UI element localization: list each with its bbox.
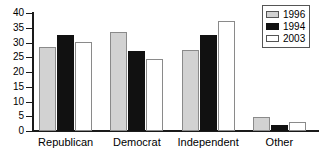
legend-label: 2003 <box>283 34 305 44</box>
legend-swatch-1996 <box>266 11 279 18</box>
legend-item-1994[interactable]: 1994 <box>266 21 305 32</box>
y-axis-tick-label: 0 <box>0 126 24 136</box>
y-axis-tick-label: 25 <box>0 52 24 62</box>
legend-label: 1996 <box>283 10 305 20</box>
bar-republican-1994 <box>57 35 74 131</box>
legend-swatch-2003 <box>266 35 279 42</box>
y-axis-tick-label-wrap: 0 <box>0 126 24 136</box>
y-axis-tick-label-wrap: 10 <box>0 97 24 107</box>
y-axis-tick-label-wrap: 30 <box>0 38 24 48</box>
y-axis-tick-label: 15 <box>0 82 24 92</box>
bar-republican-1996 <box>39 47 56 131</box>
bar-republican-2003 <box>75 42 92 131</box>
legend-swatch-1994 <box>266 23 279 30</box>
bar-independent-1996 <box>182 50 199 131</box>
y-axis-tick-label-wrap: 40 <box>0 8 24 18</box>
bar-democrat-1994 <box>128 51 145 131</box>
category-label-other: Other <box>233 136 326 148</box>
y-axis-tick-label: 20 <box>0 67 24 77</box>
y-axis-tick-label: 10 <box>0 97 24 107</box>
legend-label: 1994 <box>283 22 305 32</box>
bar-other-1996 <box>253 117 270 131</box>
legend: 199619942003 <box>262 5 310 48</box>
bar-democrat-2003 <box>146 59 163 131</box>
y-axis-tick-label: 35 <box>0 23 24 33</box>
bar-democrat-1996 <box>110 32 127 131</box>
bar-chart: 0510152025303540 RepublicanDemocratIndep… <box>0 0 326 157</box>
bar-independent-1994 <box>200 35 217 131</box>
bar-other-2003 <box>289 122 306 131</box>
y-axis-tick-label: 5 <box>0 111 24 121</box>
bar-independent-2003 <box>218 21 235 131</box>
y-axis-tick-label-wrap: 20 <box>0 67 24 77</box>
y-axis-tick-label-wrap: 25 <box>0 52 24 62</box>
legend-item-1996[interactable]: 1996 <box>266 9 305 20</box>
y-axis-tick-label: 30 <box>0 38 24 48</box>
y-axis-tick-label-wrap: 15 <box>0 82 24 92</box>
legend-item-2003[interactable]: 2003 <box>266 33 305 44</box>
bar-other-1994 <box>271 125 288 131</box>
y-axis-tick-label-wrap: 5 <box>0 111 24 121</box>
y-axis-tick-label-wrap: 35 <box>0 23 24 33</box>
y-axis-tick-label: 40 <box>0 8 24 18</box>
